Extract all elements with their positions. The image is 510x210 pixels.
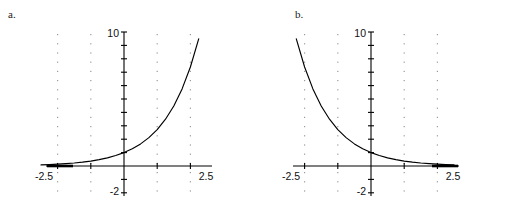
grid-dot bbox=[437, 108, 438, 109]
figure-panel-b: b. 10 -2 -2.5 2.5 bbox=[255, 0, 510, 210]
x-axis-left-label-a: -2.5 bbox=[35, 170, 53, 182]
grid-dot bbox=[437, 181, 438, 182]
grid-dot bbox=[404, 172, 405, 173]
grid-dot bbox=[57, 80, 58, 81]
x-axis-left-label-b: -2.5 bbox=[282, 170, 300, 182]
grid-dot bbox=[157, 135, 158, 136]
grid-dot bbox=[90, 135, 91, 136]
grid-dot bbox=[304, 135, 305, 136]
grid-dot bbox=[57, 135, 58, 136]
grid-dot bbox=[90, 172, 91, 173]
grid-dot bbox=[190, 89, 191, 90]
grid-dot bbox=[157, 98, 158, 99]
grid-dot bbox=[57, 126, 58, 127]
grid-dot bbox=[304, 117, 305, 118]
grid-dot bbox=[304, 126, 305, 127]
grid-dot bbox=[90, 190, 91, 191]
grid-dot bbox=[304, 62, 305, 63]
grid-dot bbox=[337, 43, 338, 44]
grid-dot bbox=[57, 154, 58, 155]
grid-dot bbox=[157, 62, 158, 63]
grid-dot bbox=[404, 71, 405, 72]
grid-dot bbox=[404, 62, 405, 63]
grid-dot bbox=[437, 62, 438, 63]
chart-svg-a: 10 -2 -2.5 2.5 bbox=[0, 0, 255, 210]
grid-dot bbox=[437, 135, 438, 136]
axes-a bbox=[46, 32, 212, 196]
grid-dot bbox=[190, 135, 191, 136]
grid-dot bbox=[57, 117, 58, 118]
grid-dot bbox=[437, 34, 438, 35]
grid-dot bbox=[157, 190, 158, 191]
curve-exponential-decay bbox=[296, 39, 454, 165]
grid-dot bbox=[57, 43, 58, 44]
grid-dot bbox=[304, 89, 305, 90]
grid-dot bbox=[190, 190, 191, 191]
grid-dot bbox=[437, 98, 438, 99]
x-axis-right-label-a: 2.5 bbox=[199, 170, 214, 182]
grid-dot bbox=[57, 181, 58, 182]
grid-dot bbox=[157, 52, 158, 53]
plot-area-b: 10 -2 -2.5 2.5 bbox=[255, 0, 510, 210]
grid-dot bbox=[404, 108, 405, 109]
grid-dot bbox=[337, 80, 338, 81]
grid-dot bbox=[157, 172, 158, 173]
grid-dot bbox=[90, 108, 91, 109]
grid-dot bbox=[57, 98, 58, 99]
grid-dot bbox=[437, 154, 438, 155]
grid-dot bbox=[190, 52, 191, 53]
grid-dot bbox=[437, 43, 438, 44]
grid-dot bbox=[437, 52, 438, 53]
grid-dot bbox=[404, 52, 405, 53]
grid-dot bbox=[57, 34, 58, 35]
grid-dot bbox=[90, 52, 91, 53]
grid-dot bbox=[157, 80, 158, 81]
grid-dot bbox=[190, 181, 191, 182]
grid-dot bbox=[337, 181, 338, 182]
grid-dot bbox=[57, 89, 58, 90]
grid-dot bbox=[190, 172, 191, 173]
grid-dot bbox=[90, 62, 91, 63]
grid-dot bbox=[404, 181, 405, 182]
grid-dot bbox=[190, 108, 191, 109]
plot-area-a: 10 -2 -2.5 2.5 bbox=[0, 0, 255, 210]
grid-dot bbox=[157, 34, 158, 35]
grid-dot bbox=[404, 190, 405, 191]
grid-dot bbox=[90, 71, 91, 72]
axes-b bbox=[293, 32, 459, 196]
grid-dot bbox=[404, 154, 405, 155]
grid-dot bbox=[437, 172, 438, 173]
grid-dot bbox=[304, 181, 305, 182]
grid-dot bbox=[157, 126, 158, 127]
y-axis-bottom-label-a: -2 bbox=[110, 185, 119, 197]
grid-dot bbox=[157, 154, 158, 155]
grid-dot bbox=[90, 80, 91, 81]
grid-dot bbox=[90, 117, 91, 118]
grid-dot bbox=[190, 98, 191, 99]
grid-dot bbox=[304, 52, 305, 53]
y-axis-bottom-label-b: -2 bbox=[357, 185, 366, 197]
x-axis-right-label-b: 2.5 bbox=[446, 170, 461, 182]
grid-dot bbox=[304, 172, 305, 173]
grid-dot bbox=[157, 43, 158, 44]
grid-dot bbox=[57, 52, 58, 53]
grid-dot bbox=[190, 71, 191, 72]
grid-dot bbox=[190, 62, 191, 63]
grid-dot bbox=[190, 144, 191, 145]
grid-dot bbox=[404, 144, 405, 145]
grid-dot bbox=[304, 108, 305, 109]
grid-dot bbox=[337, 126, 338, 127]
grid-dot bbox=[437, 117, 438, 118]
y-axis-top-label-b: 10 bbox=[354, 27, 366, 39]
grid-dot bbox=[304, 80, 305, 81]
grid-dot bbox=[90, 98, 91, 99]
grid-dot bbox=[304, 43, 305, 44]
grid-dot bbox=[404, 34, 405, 35]
grid-dot bbox=[304, 144, 305, 145]
grid-dot bbox=[90, 34, 91, 35]
grid-dot bbox=[157, 117, 158, 118]
grid-dot bbox=[304, 154, 305, 155]
grid-dot bbox=[337, 190, 338, 191]
grid-dot bbox=[337, 144, 338, 145]
grid-dot bbox=[337, 52, 338, 53]
